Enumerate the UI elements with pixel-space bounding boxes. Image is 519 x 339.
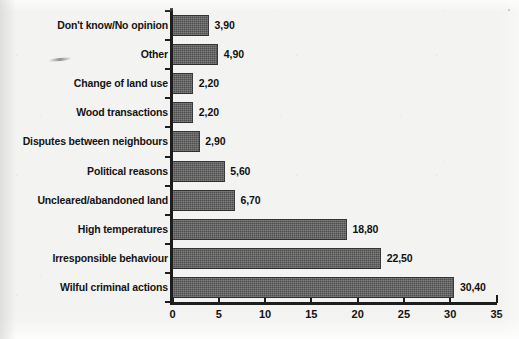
category-label-8: High temperatures [78, 224, 168, 235]
category-label-10: Wilful criminal actions [60, 282, 168, 293]
x-axis-tick-label-0: 0 [169, 309, 175, 320]
scan-artifact-dot [508, 9, 510, 11]
value-label-6: 5,60 [230, 166, 250, 177]
bar-6 [173, 161, 225, 182]
x-axis-tick-label-2: 10 [259, 309, 271, 320]
y-axis-tick-1 [165, 39, 170, 41]
value-label-3: 2,20 [199, 78, 219, 89]
x-axis-tick-label-4: 20 [352, 309, 364, 320]
x-axis-tick-label-1: 5 [216, 309, 222, 320]
value-label-7: 6,70 [241, 195, 261, 206]
bar-4 [173, 102, 193, 123]
y-axis-tick-2 [165, 68, 170, 70]
category-label-3: Change of land use [74, 78, 168, 89]
x-axis-tick-label-7: 35 [490, 309, 502, 320]
x-axis-tick-label-3: 15 [305, 309, 317, 320]
bar-1 [173, 15, 209, 36]
bar-8 [173, 219, 347, 240]
category-label-7: Uncleared/abandoned land [37, 195, 168, 206]
category-label-4: Wood transactions [76, 107, 168, 118]
bar-2 [173, 44, 218, 65]
category-label-2: Other [141, 49, 168, 60]
bar-7 [173, 190, 235, 211]
value-label-10: 30,40 [460, 282, 486, 293]
category-label-1: Don't know/No opinion [57, 20, 168, 31]
y-axis-tick-4 [165, 126, 170, 128]
value-label-1: 3,90 [215, 20, 235, 31]
y-axis-tick-10 [165, 301, 170, 303]
category-label-6: Political reasons [87, 166, 168, 177]
value-label-5: 2,90 [205, 136, 225, 147]
x-axis-tick-7 [496, 295, 498, 303]
bar-10 [173, 277, 454, 298]
bar-5 [173, 131, 200, 152]
y-axis-tick-7 [165, 214, 170, 216]
value-label-8: 18,80 [353, 224, 379, 235]
category-label-5: Disputes between neighbours [23, 136, 168, 147]
chart-figure: 05101520253035 Don't know/No opinionOthe… [0, 0, 519, 339]
bar-9 [173, 248, 381, 269]
y-axis-tick-3 [165, 97, 170, 99]
y-axis-tick-9 [165, 272, 170, 274]
x-axis-tick-label-5: 25 [398, 309, 410, 320]
value-label-9: 22,50 [387, 253, 413, 264]
bar-3 [173, 73, 193, 94]
category-label-9: Irresponsible behaviour [52, 253, 168, 264]
x-axis-tick-label-6: 30 [444, 309, 456, 320]
bar-chart-plot-area: 05101520253035 Don't know/No opinionOthe… [0, 0, 519, 339]
y-axis-tick-8 [165, 243, 170, 245]
y-axis-tick-5 [165, 156, 170, 158]
value-label-2: 4,90 [224, 49, 244, 60]
y-axis-tick-0 [165, 10, 170, 12]
y-axis-tick-6 [165, 185, 170, 187]
value-label-4: 2,20 [199, 107, 219, 118]
